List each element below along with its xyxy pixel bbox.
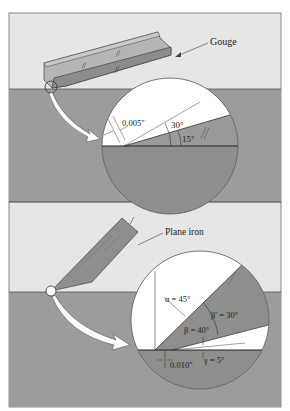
top-angle-30-label: 30° <box>171 120 184 130</box>
bottom-thickness-label: 0.010″ <box>170 360 193 370</box>
top-thickness-label: 0.005″ <box>122 118 145 128</box>
gouge-label: Gouge <box>210 36 237 47</box>
beta-angle-label: β = 40° <box>184 325 209 335</box>
magnify-source-circle-bottom <box>46 286 56 296</box>
alpha-angle-label: α = 45° <box>165 294 190 304</box>
top-angle-15-label: 15° <box>182 134 195 144</box>
plane-iron-label: Plane iron <box>165 227 204 237</box>
diagram-canvas: Gouge <box>0 0 290 411</box>
beta-prime-angle-label: β′ = 30° <box>211 310 238 320</box>
gamma-angle-label: γ = 5° <box>203 355 224 365</box>
